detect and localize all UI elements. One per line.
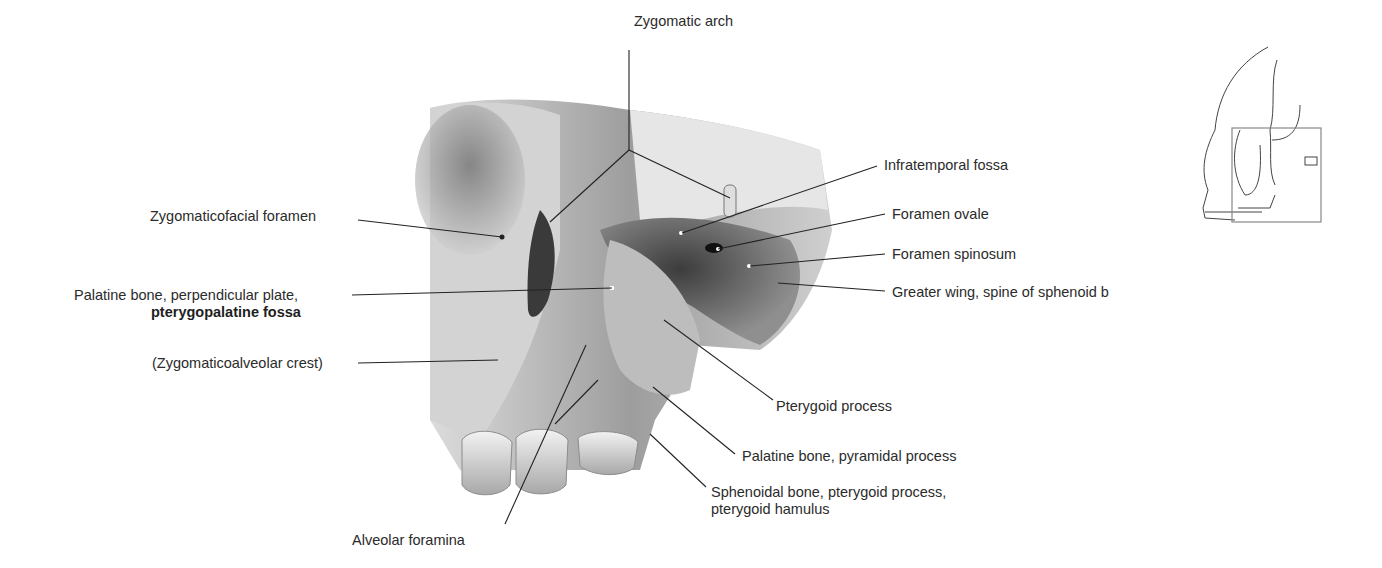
label-palatine-perpendicular: Palatine bone, perpendicular plate, <box>74 287 298 304</box>
label-zygomatic-arch: Zygomatic arch <box>634 13 733 30</box>
label-zygomaticoalveolar-crest: (Zygomaticoalveolar crest) <box>152 355 323 372</box>
label-sphenoidal-hamulus-line1: Sphenoidal bone, pterygoid process, <box>711 484 946 501</box>
label-zygomaticofacial-foramen: Zygomaticofacial foramen <box>150 208 316 225</box>
label-pterygopalatine-fossa: pterygopalatine fossa <box>151 304 301 321</box>
label-infratemporal-fossa: Infratemporal fossa <box>884 157 1008 174</box>
label-greater-wing: Greater wing, spine of sphenoid b <box>892 284 1109 301</box>
label-foramen-ovale: Foramen ovale <box>892 206 989 223</box>
anatomy-figure: Zygomatic arch Infratemporal fossa Foram… <box>0 0 1382 568</box>
label-palatine-pyramidal: Palatine bone, pyramidal process <box>742 448 956 465</box>
label-foramen-spinosum: Foramen spinosum <box>892 246 1016 263</box>
label-pterygoid-process: Pterygoid process <box>776 398 892 415</box>
skull-orientation-sketch <box>0 0 1382 568</box>
label-alveolar-foramina: Alveolar foramina <box>352 532 465 549</box>
label-sphenoidal-hamulus-line2: pterygoid hamulus <box>711 501 830 518</box>
